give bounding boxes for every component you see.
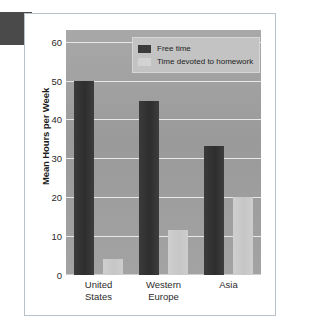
gridline-50 [66, 81, 261, 82]
x-axis-label-united-states: UnitedStates [64, 279, 134, 303]
y-axis-tick-40: 40 [51, 114, 62, 125]
chart-legend: Free timeTime devoted to homework [132, 37, 260, 73]
legend-label-2: Time devoted to homework [157, 57, 253, 66]
bar-western-europe-time-devoted-to-homework [168, 230, 188, 275]
bar-asia-time-devoted-to-homework [233, 197, 253, 275]
gridline-10 [66, 236, 261, 237]
x-axis-label-line: Europe [129, 291, 199, 303]
x-axis-label-line: United [64, 279, 134, 291]
y-axis-tick-labels: 0102030405060 [36, 30, 62, 275]
legend-swatch-free-time [138, 45, 151, 53]
y-axis-tick-20: 20 [51, 192, 62, 203]
gridline-40 [66, 119, 261, 120]
x-axis-label-asia: Asia [194, 279, 264, 291]
y-axis-tick-10: 10 [51, 231, 62, 242]
y-axis-tick-60: 60 [51, 36, 62, 47]
gridline-30 [66, 158, 261, 159]
bar-asia-free-time [204, 146, 224, 275]
x-axis-label-line: States [64, 291, 134, 303]
x-axis-label-line: Western [129, 279, 199, 291]
gridline-0 [66, 274, 261, 275]
x-axis-tick-labels: UnitedStatesWesternEuropeAsia [66, 279, 261, 313]
bar-united-states-free-time [74, 81, 94, 275]
gridline-20 [66, 197, 261, 198]
bar-western-europe-free-time [139, 101, 159, 275]
legend-swatch-homework [138, 58, 151, 66]
legend-item-2: Time devoted to homework [138, 55, 253, 68]
x-axis-label-line: Asia [194, 279, 264, 291]
y-axis-tick-30: 30 [51, 153, 62, 164]
x-axis-label-western-europe: WesternEurope [129, 279, 199, 303]
y-axis-tick-0: 0 [57, 270, 62, 281]
legend-label-1: Free time [157, 44, 191, 53]
bar-chart: Mean Hours per Week 0102030405060 Free t… [24, 13, 276, 316]
legend-item-1: Free time [138, 42, 253, 55]
bar-united-states-time-devoted-to-homework [103, 259, 123, 275]
y-axis-tick-50: 50 [51, 75, 62, 86]
